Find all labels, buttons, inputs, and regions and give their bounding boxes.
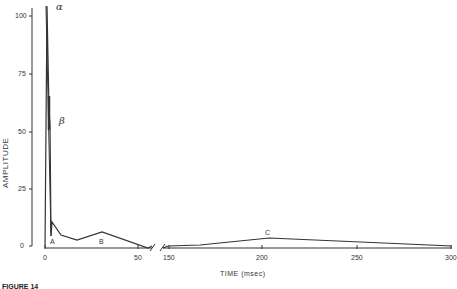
x-tick-50: 50 — [134, 254, 142, 261]
annotation-B: B — [99, 238, 104, 245]
annotation-alpha: α — [56, 1, 63, 12]
annotation-beta: β — [59, 115, 65, 126]
annotation-A: A — [50, 238, 55, 245]
figure-label: FIGURE 14 — [2, 283, 38, 289]
data-line-right — [163, 238, 452, 248]
y-tick-100: 100 — [15, 12, 27, 19]
annotation-C: C — [265, 229, 270, 236]
y-tick-0: 0 — [20, 242, 24, 249]
x-axis-title: TIME (msec) — [220, 270, 266, 277]
x-tick-250: 250 — [351, 254, 363, 261]
y-axis-title: AMPLITUDE — [1, 138, 10, 188]
data-line-left — [45, 6, 152, 248]
y-tick-50: 50 — [18, 128, 26, 135]
x-tick-300: 300 — [445, 254, 457, 261]
chart-canvas — [0, 0, 457, 289]
x-tick-0: 0 — [43, 254, 47, 261]
x-tick-200: 200 — [256, 254, 268, 261]
y-tick-25: 25 — [18, 185, 26, 192]
x-tick-150: 150 — [163, 254, 175, 261]
y-tick-75: 75 — [18, 70, 26, 77]
